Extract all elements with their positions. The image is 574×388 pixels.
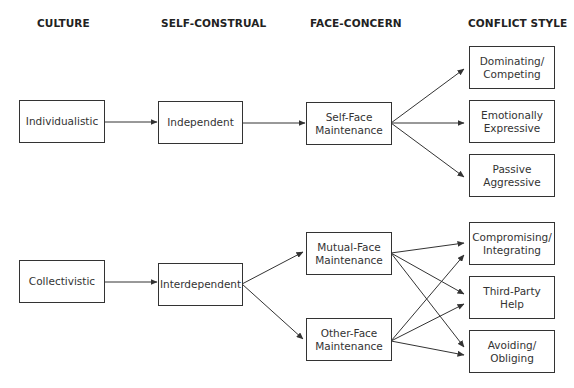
arrow-interdependent-other <box>242 284 303 339</box>
arrow-other-thirdparty <box>391 304 464 341</box>
node-label-line1: Third-Party <box>483 285 541 298</box>
node-collectivistic: Collectivistic <box>19 260 105 303</box>
node-label-line2: Maintenance <box>315 254 383 267</box>
node-label-line2: Expressive <box>484 122 541 135</box>
node-other-face-maintenance: Other-Face Maintenance <box>306 318 392 361</box>
node-label: Individualistic <box>26 115 98 128</box>
node-label-line2: Integrating <box>483 244 541 257</box>
arrow-mutual-thirdparty <box>391 253 464 294</box>
arrow-selfface-dominating <box>391 69 464 123</box>
node-self-face-maintenance: Self-Face Maintenance <box>306 102 392 145</box>
node-label: Collectivistic <box>29 275 95 288</box>
arrow-mutual-avoiding <box>391 253 464 347</box>
node-label-line1: Other-Face <box>321 327 378 340</box>
node-independent: Independent <box>158 101 243 144</box>
node-third-party-help: Third-Party Help <box>469 276 555 319</box>
node-emotionally-expressive: Emotionally Expressive <box>469 100 555 143</box>
node-label-line1: Self-Face <box>326 111 373 124</box>
node-label-line1: Compromising/ <box>472 231 552 244</box>
arrow-mutual-compromising <box>391 243 464 253</box>
node-dominating-competing: Dominating/ Competing <box>469 46 555 89</box>
node-label-line2: Aggressive <box>483 176 541 189</box>
arrow-interdependent-mutual <box>242 252 303 284</box>
node-mutual-face-maintenance: Mutual-Face Maintenance <box>306 232 392 275</box>
node-label-line1: Dominating/ <box>480 55 545 68</box>
node-interdependent: Interdependent <box>158 263 243 306</box>
arrow-other-avoiding <box>391 341 464 355</box>
node-label-line2: Maintenance <box>315 124 383 137</box>
node-label: Independent <box>167 116 234 129</box>
node-label-line2: Competing <box>483 68 540 81</box>
node-label-line1: Mutual-Face <box>317 241 380 254</box>
node-avoiding-obliging: Avoiding/ Obliging <box>469 330 555 373</box>
node-label-line2: Maintenance <box>315 340 383 353</box>
node-label-line2: Obliging <box>490 352 534 365</box>
node-individualistic: Individualistic <box>19 100 105 143</box>
node-label-line2: Help <box>500 298 524 311</box>
node-label: Interdependent <box>160 278 241 291</box>
arrow-selfface-passive <box>391 123 464 177</box>
node-label-line1: Emotionally <box>481 109 543 122</box>
node-compromising-integrating: Compromising/ Integrating <box>469 222 555 265</box>
node-passive-aggressive: Passive Aggressive <box>469 154 555 197</box>
node-label-line1: Passive <box>493 163 532 176</box>
node-label-line1: Avoiding/ <box>488 339 537 352</box>
